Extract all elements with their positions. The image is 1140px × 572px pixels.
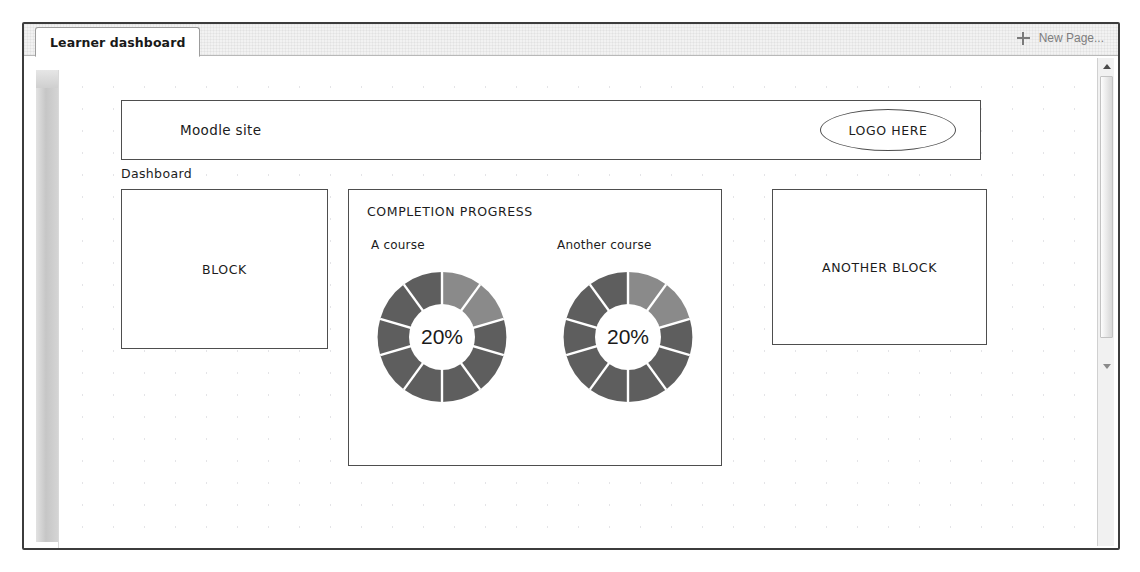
completion-donut-chart[interactable]: 20% bbox=[557, 266, 699, 408]
scroll-down-button[interactable] bbox=[1098, 358, 1115, 374]
breadcrumb: Dashboard bbox=[121, 166, 192, 181]
left-block-label: BLOCK bbox=[122, 262, 327, 277]
course-name: A course bbox=[371, 238, 425, 252]
course-progress-row: A course bbox=[349, 238, 721, 408]
right-block-label: ANOTHER BLOCK bbox=[773, 260, 986, 275]
right-block[interactable]: ANOTHER BLOCK bbox=[772, 189, 987, 345]
site-header-bar[interactable]: Moodle site LOGO HERE bbox=[121, 100, 981, 160]
logo-placeholder-ellipse[interactable]: LOGO HERE bbox=[820, 109, 956, 151]
scroll-up-button[interactable] bbox=[1098, 58, 1115, 74]
donut-percent-label: 20% bbox=[557, 325, 699, 349]
completion-donut-chart[interactable]: 20% bbox=[371, 266, 513, 408]
new-page-label: New Page... bbox=[1039, 31, 1104, 45]
scrollbar-thumb[interactable] bbox=[1100, 76, 1113, 338]
course-name: Another course bbox=[557, 238, 652, 252]
mockup-editor-window: Learner dashboard New Page... Moodle sit… bbox=[22, 22, 1120, 550]
vertical-scrollbar[interactable] bbox=[1097, 58, 1114, 546]
tab-learner-dashboard[interactable]: Learner dashboard bbox=[35, 27, 200, 57]
logo-placeholder-label: LOGO HERE bbox=[848, 123, 927, 138]
left-block[interactable]: BLOCK bbox=[121, 189, 328, 349]
plus-icon bbox=[1017, 32, 1030, 45]
tab-strip: Learner dashboard New Page... bbox=[24, 24, 1118, 56]
donut-percent-label: 20% bbox=[371, 325, 513, 349]
canvas-gutter-left bbox=[36, 70, 58, 542]
completion-progress-panel[interactable]: COMPLETION PROGRESS A course bbox=[348, 189, 722, 466]
course-progress-item[interactable]: A course bbox=[349, 238, 535, 408]
canvas-area: Moodle site LOGO HERE Dashboard BLOCK CO… bbox=[24, 56, 1118, 548]
site-title: Moodle site bbox=[180, 122, 261, 138]
mockup-canvas[interactable]: Moodle site LOGO HERE Dashboard BLOCK CO… bbox=[58, 70, 1084, 548]
course-progress-item[interactable]: Another course bbox=[535, 238, 721, 408]
triangle-up-icon bbox=[1103, 64, 1111, 69]
triangle-down-icon bbox=[1103, 364, 1111, 369]
panel-title: COMPLETION PROGRESS bbox=[367, 204, 533, 219]
tab-label: Learner dashboard bbox=[50, 35, 185, 50]
new-page-button[interactable]: New Page... bbox=[1017, 31, 1104, 45]
